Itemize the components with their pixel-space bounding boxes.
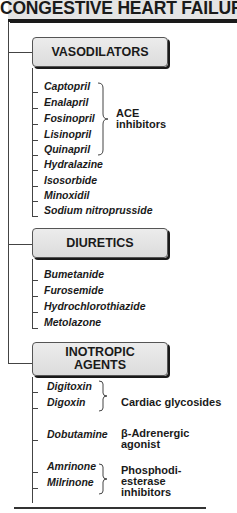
subspine-diuretics xyxy=(32,259,33,328)
tick xyxy=(32,216,38,217)
drug-item: Dobutamine xyxy=(47,428,108,440)
tick xyxy=(32,170,38,171)
tick xyxy=(32,488,38,489)
group-label-cardiac-glycosides: Cardiac glycosides xyxy=(121,397,221,408)
tick xyxy=(32,472,38,473)
group-label-ace-inhibitors: ACE inhibitors xyxy=(116,108,166,130)
subspine-vasodilators xyxy=(32,68,33,216)
drug-item: Fosinopril xyxy=(44,112,95,124)
drug-item: Quinapril xyxy=(44,143,90,155)
drug-item: Isosorbide xyxy=(44,174,97,186)
main-spine-line xyxy=(8,22,9,364)
category-label: INOTROPIC AGENTS xyxy=(65,346,134,372)
drug-item: Furosemide xyxy=(44,284,104,296)
tick xyxy=(32,140,38,141)
category-label: DIURETICS xyxy=(66,237,133,250)
tick xyxy=(32,440,38,441)
tick xyxy=(32,328,38,329)
drug-item: Sodium nitroprusside xyxy=(44,204,153,216)
category-inotropic-agents: INOTROPIC AGENTS xyxy=(32,342,168,376)
connector-vasodilators xyxy=(8,52,32,53)
title-banner: CONGESTIVE HEART FAILURE xyxy=(8,0,237,22)
diagram-title: CONGESTIVE HEART FAILURE xyxy=(0,0,237,19)
connector-diuretics xyxy=(8,244,32,245)
tick xyxy=(32,186,38,187)
drug-item: Lisinopril xyxy=(44,128,91,140)
drug-item: Enalapril xyxy=(44,96,88,108)
drug-item: Bumetanide xyxy=(44,268,104,280)
tick xyxy=(32,201,38,202)
drug-item: Minoxidil xyxy=(44,189,90,201)
drug-item: Hydralazine xyxy=(44,158,103,170)
drug-item: Hydrochlorothiazide xyxy=(44,300,146,312)
tick xyxy=(32,280,38,281)
tick xyxy=(32,124,38,125)
group-label-beta-adrenergic-agonist: β-Adrenergic agonist xyxy=(121,428,189,450)
brace-icon xyxy=(97,380,109,412)
category-vasodilators: VASODILATORS xyxy=(32,37,168,67)
tick xyxy=(32,408,38,409)
drug-item: Amrinone xyxy=(47,460,96,472)
tick xyxy=(32,92,38,93)
tick xyxy=(32,155,38,156)
footer-rule xyxy=(14,507,206,509)
drug-item: Milrinone xyxy=(47,476,94,488)
category-diuretics: DIURETICS xyxy=(32,228,168,258)
drug-item: Digitoxin xyxy=(47,380,92,392)
tick xyxy=(32,312,38,313)
tick xyxy=(32,108,38,109)
tick xyxy=(32,296,38,297)
brace-icon xyxy=(97,463,109,495)
tick xyxy=(32,392,38,393)
category-label: VASODILATORS xyxy=(51,46,148,59)
drug-item: Digoxin xyxy=(47,396,86,408)
brace-icon xyxy=(96,82,110,156)
drug-item: Captopril xyxy=(44,80,90,92)
connector-inotropic xyxy=(8,363,32,364)
drug-item: Metolazone xyxy=(44,316,101,328)
group-label-phosphodiesterase-inhibitors: Phosphodi- esterase inhibitors xyxy=(121,465,182,498)
